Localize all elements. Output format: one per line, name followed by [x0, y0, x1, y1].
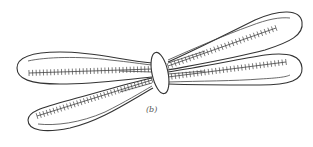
hatch-tick	[260, 62, 261, 68]
hatch-tick	[256, 63, 257, 69]
hatch-tick	[238, 65, 239, 71]
left-upper-arm	[17, 52, 152, 84]
left-lower-arm-inner-line	[38, 86, 152, 125]
hatch-tick	[208, 69, 209, 75]
hatch-tick	[205, 69, 206, 75]
hatch-tick	[201, 70, 202, 76]
hatch-tick	[252, 63, 253, 69]
hatch-tick	[212, 68, 213, 74]
hatch-tick	[275, 60, 276, 66]
hatch-tick	[230, 66, 231, 72]
hatch-tick	[282, 59, 283, 65]
hatch-tick	[227, 67, 228, 73]
left-upper-arm-inner-line	[28, 57, 152, 65]
hatch-tick	[264, 62, 265, 68]
hatch-tick	[197, 70, 198, 76]
hatch-tick	[249, 64, 250, 70]
hatch-tick	[223, 67, 224, 73]
hatch-tick	[271, 61, 272, 67]
hatch-tick	[234, 66, 235, 72]
left-upper-arm-ticks	[29, 66, 152, 76]
left-upper-arm-chromatid-axis-2	[120, 71, 152, 72]
hatch-tick	[267, 61, 268, 67]
hatch-tick	[179, 73, 180, 79]
hatch-tick	[286, 59, 287, 65]
hatch-tick	[241, 65, 242, 71]
chromosome-diagram	[0, 0, 313, 147]
hatch-tick	[245, 64, 246, 70]
hatch-tick	[175, 73, 176, 79]
hatch-tick	[171, 74, 172, 80]
hatch-tick	[219, 67, 220, 73]
left-lower-arm	[28, 77, 153, 130]
figure-label: (b)	[146, 105, 157, 114]
hatch-tick	[278, 60, 279, 66]
left-upper-arm-outline	[17, 52, 152, 84]
hatch-tick	[216, 68, 217, 74]
